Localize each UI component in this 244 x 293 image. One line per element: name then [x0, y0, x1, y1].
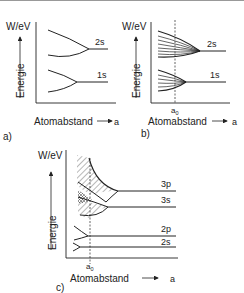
level-label-3s: 3s	[161, 195, 171, 205]
x-axis-label: Atomabstand	[70, 273, 129, 284]
level-label-1s: 1s	[210, 70, 220, 80]
x-axis-symbol: a	[232, 117, 237, 127]
y-axis-label: Energie	[47, 215, 58, 250]
panel-caption: b)	[141, 128, 150, 139]
y-axis-label: Energie	[131, 63, 142, 98]
energy-band-diagram: W/eV Energie 2s 1s Atomabstand a a) W/eV…	[0, 0, 244, 293]
level-label-2s: 2s	[161, 237, 171, 247]
x-axis-symbol: a	[114, 117, 119, 127]
level-label-2s: 2s	[207, 39, 217, 49]
a0-label: a0	[86, 262, 94, 272]
a0-label: a0	[171, 106, 179, 116]
x-axis-label: Atomabstand	[148, 116, 207, 127]
x-axis-symbol: a	[170, 274, 175, 284]
level-label-2p: 2p	[161, 224, 171, 234]
x-axis-label: Atomabstand	[34, 116, 93, 127]
level-label-1s: 1s	[97, 70, 107, 80]
y-unit-label: W/eV	[6, 21, 31, 32]
panel-b: W/eV Energie 2s 1s a0	[122, 20, 237, 139]
y-axis-label: Energie	[15, 63, 26, 98]
level-label-3p: 3p	[161, 179, 171, 189]
y-unit-label: W/eV	[38, 150, 63, 161]
y-unit-label: W/eV	[122, 21, 147, 32]
panel-c: W/eV Energie 3p 3s 2p 2s a0 Atomabstand	[38, 150, 178, 293]
level-label-2s: 2s	[95, 37, 105, 47]
panel-caption: a)	[3, 131, 12, 142]
panel-a: W/eV Energie 2s 1s Atomabstand a a)	[3, 21, 119, 142]
panel-caption: c)	[56, 282, 64, 293]
axes	[36, 22, 116, 103]
